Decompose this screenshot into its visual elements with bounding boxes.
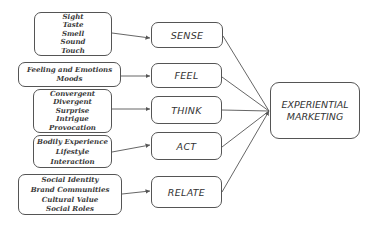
experiential-marketing-diagram: Sight Taste Smell Sound Touch Feeling an… — [0, 0, 377, 229]
act-module-box: ACT — [151, 132, 222, 160]
act-item: Bodily Experience — [37, 137, 108, 147]
act-module-label: ACT — [177, 141, 197, 152]
experiential-marketing-box: EXPERIENTIAL MARKETING — [270, 82, 360, 139]
act-source-box: Bodily Experience Lifestyle Interaction — [33, 135, 112, 168]
feel-item: Moods — [57, 75, 83, 84]
feel-module-box: FEEL — [151, 63, 222, 88]
target-label-line: EXPERIENTIAL — [281, 99, 348, 111]
sense-module-box: SENSE — [151, 22, 223, 48]
think-module-label: THINK — [171, 105, 202, 116]
relate-item: Brand Communities — [31, 185, 110, 195]
feel-source-box: Feeling and Emotions Moods — [18, 62, 121, 87]
target-label-line: MARKETING — [287, 111, 344, 123]
think-item: Provocation — [49, 124, 96, 133]
think-module-box: THINK — [151, 96, 222, 124]
relate-item: Cultural Value — [42, 195, 99, 205]
relate-source-box: Social Identity Brand Communities Cultur… — [18, 174, 122, 215]
think-source-box: Convergent Divergent Surprise Intrigue P… — [33, 89, 112, 133]
sense-item: Touch — [61, 47, 85, 56]
relate-item: Social Roles — [46, 204, 94, 214]
act-item: Interaction — [50, 157, 94, 167]
relate-module-label: RELATE — [168, 187, 205, 198]
sense-source-box: Sight Taste Smell Sound Touch — [34, 12, 112, 56]
act-item: Lifestyle — [56, 147, 89, 157]
relate-item: Social Identity — [41, 175, 98, 185]
feel-module-label: FEEL — [175, 70, 199, 81]
relate-module-box: RELATE — [151, 176, 222, 208]
sense-module-label: SENSE — [171, 30, 204, 41]
